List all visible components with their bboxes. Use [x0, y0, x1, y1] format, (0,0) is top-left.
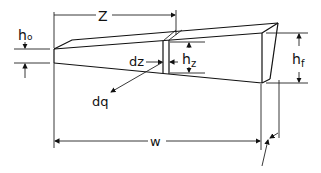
slice-element [163, 30, 182, 74]
dz-callout: dz [129, 54, 162, 69]
dz-label: dz [129, 54, 144, 69]
tapered-fin-diagram: Z ho hz dz dq [0, 0, 321, 173]
h0-label: ho [18, 27, 33, 43]
w-label: w [150, 134, 161, 149]
wedge-body [54, 23, 278, 83]
hf-label: hf [292, 51, 305, 69]
z-label: Z [98, 8, 108, 24]
hf-dimension: hf [266, 33, 308, 83]
dq-label: dq [92, 94, 109, 109]
z-dimension: Z [54, 8, 176, 48]
h0-dimension: ho [14, 27, 50, 78]
dq-callout: dq [92, 62, 163, 109]
hz-label: hz [182, 51, 196, 69]
w-dimension: w [54, 63, 279, 166]
hz-dimension: hz [170, 42, 205, 73]
